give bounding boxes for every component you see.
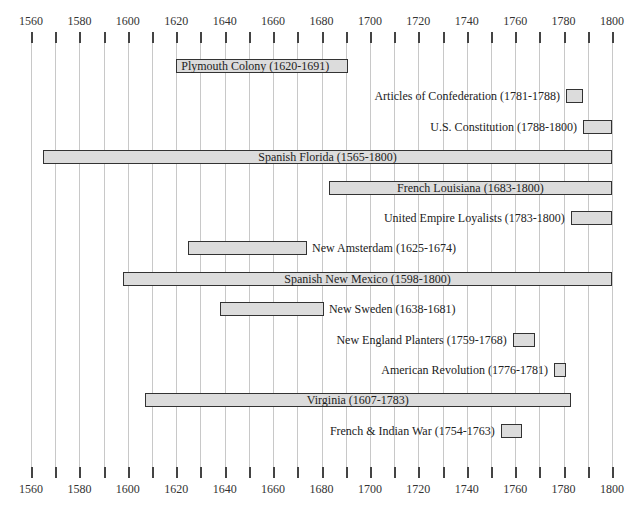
x-tick-label-bottom: 1680 bbox=[302, 482, 342, 497]
timeline-bar bbox=[501, 424, 523, 438]
x-tick-label-bottom: 1620 bbox=[156, 482, 196, 497]
bar-label: U.S. Constitution (1788-1800) bbox=[430, 120, 577, 134]
tick-mark-bottom bbox=[443, 467, 445, 478]
tick-mark-bottom bbox=[152, 467, 154, 478]
bar-label: American Revolution (1776-1781) bbox=[381, 363, 548, 377]
timeline-chart: 1560156015801580160016001620162016401640… bbox=[0, 0, 642, 510]
gridline bbox=[249, 32, 250, 478]
tick-mark-top bbox=[564, 32, 566, 43]
timeline-bar bbox=[554, 363, 566, 377]
tick-mark-bottom bbox=[515, 467, 517, 478]
bar-label: United Empire Loyalists (1783-1800) bbox=[384, 211, 565, 225]
timeline-bar bbox=[566, 89, 583, 103]
x-tick-label-bottom: 1560 bbox=[11, 482, 51, 497]
x-tick-label-top: 1700 bbox=[350, 14, 390, 29]
bar-label: French Louisiana (1683-1800) bbox=[329, 181, 612, 195]
tick-mark-bottom bbox=[31, 467, 33, 478]
x-tick-label-top: 1580 bbox=[59, 14, 99, 29]
gridline bbox=[322, 32, 323, 478]
tick-mark-top bbox=[31, 32, 33, 43]
timeline-bar bbox=[513, 333, 535, 347]
gridline bbox=[79, 32, 80, 478]
tick-mark-top bbox=[176, 32, 178, 43]
tick-mark-top bbox=[128, 32, 130, 43]
tick-mark-top bbox=[297, 32, 299, 43]
x-tick-label-bottom: 1800 bbox=[592, 482, 632, 497]
gridline bbox=[176, 32, 177, 478]
x-tick-label-bottom: 1600 bbox=[108, 482, 148, 497]
tick-mark-bottom bbox=[370, 467, 372, 478]
tick-mark-bottom bbox=[588, 467, 590, 478]
x-tick-label-top: 1560 bbox=[11, 14, 51, 29]
x-tick-label-top: 1640 bbox=[205, 14, 245, 29]
gridline bbox=[225, 32, 226, 478]
tick-mark-top bbox=[225, 32, 227, 43]
x-tick-label-bottom: 1700 bbox=[350, 482, 390, 497]
x-tick-label-top: 1780 bbox=[544, 14, 584, 29]
tick-mark-top bbox=[443, 32, 445, 43]
tick-mark-bottom bbox=[128, 467, 130, 478]
timeline-bar bbox=[583, 120, 612, 134]
tick-mark-top bbox=[104, 32, 106, 43]
tick-mark-top bbox=[539, 32, 541, 43]
x-tick-label-bottom: 1580 bbox=[59, 482, 99, 497]
bar-label: New Amsterdam (1625-1674) bbox=[312, 241, 456, 255]
tick-mark-top bbox=[515, 32, 517, 43]
tick-mark-top bbox=[394, 32, 396, 43]
gridline bbox=[273, 32, 274, 478]
x-tick-label-bottom: 1720 bbox=[398, 482, 438, 497]
bar-label: New England Planters (1759-1768) bbox=[336, 333, 506, 347]
x-tick-label-top: 1660 bbox=[253, 14, 293, 29]
bar-label: French & Indian War (1754-1763) bbox=[330, 424, 495, 438]
tick-mark-top bbox=[491, 32, 493, 43]
tick-mark-bottom bbox=[200, 467, 202, 478]
gridline bbox=[152, 32, 153, 478]
gridline bbox=[564, 32, 565, 478]
tick-mark-top bbox=[249, 32, 251, 43]
bar-label: Plymouth Colony (1620-1691) bbox=[181, 59, 329, 73]
tick-mark-bottom bbox=[539, 467, 541, 478]
x-tick-label-top: 1720 bbox=[398, 14, 438, 29]
gridline bbox=[104, 32, 105, 478]
gridline bbox=[612, 32, 613, 478]
tick-mark-top bbox=[322, 32, 324, 43]
gridline bbox=[370, 32, 371, 478]
x-tick-label-top: 1760 bbox=[495, 14, 535, 29]
tick-mark-bottom bbox=[249, 467, 251, 478]
gridline bbox=[346, 32, 347, 478]
tick-mark-top bbox=[588, 32, 590, 43]
gridline bbox=[55, 32, 56, 478]
tick-mark-bottom bbox=[491, 467, 493, 478]
x-tick-label-bottom: 1660 bbox=[253, 482, 293, 497]
tick-mark-bottom bbox=[467, 467, 469, 478]
bar-label: Spanish Florida (1565-1800) bbox=[43, 150, 612, 164]
tick-mark-bottom bbox=[612, 467, 614, 478]
timeline-bar bbox=[188, 241, 307, 255]
x-tick-label-top: 1800 bbox=[592, 14, 632, 29]
bar-label: Articles of Confederation (1781-1788) bbox=[374, 89, 560, 103]
tick-mark-bottom bbox=[322, 467, 324, 478]
tick-mark-top bbox=[346, 32, 348, 43]
bar-label: Virginia (1607-1783) bbox=[145, 393, 571, 407]
tick-mark-bottom bbox=[225, 467, 227, 478]
bar-label: New Sweden (1638-1681) bbox=[329, 302, 456, 316]
tick-mark-top bbox=[467, 32, 469, 43]
tick-mark-bottom bbox=[79, 467, 81, 478]
bar-label: Spanish New Mexico (1598-1800) bbox=[123, 272, 612, 286]
tick-mark-bottom bbox=[418, 467, 420, 478]
tick-mark-bottom bbox=[104, 467, 106, 478]
timeline-bar bbox=[571, 211, 612, 225]
gridline bbox=[297, 32, 298, 478]
tick-mark-bottom bbox=[55, 467, 57, 478]
tick-mark-top bbox=[55, 32, 57, 43]
tick-mark-bottom bbox=[176, 467, 178, 478]
gridline bbox=[588, 32, 589, 478]
x-tick-label-top: 1740 bbox=[447, 14, 487, 29]
gridline bbox=[128, 32, 129, 478]
gridline bbox=[200, 32, 201, 478]
tick-mark-bottom bbox=[297, 467, 299, 478]
tick-mark-top bbox=[273, 32, 275, 43]
x-tick-label-top: 1620 bbox=[156, 14, 196, 29]
gridline bbox=[31, 32, 32, 478]
x-tick-label-top: 1600 bbox=[108, 14, 148, 29]
